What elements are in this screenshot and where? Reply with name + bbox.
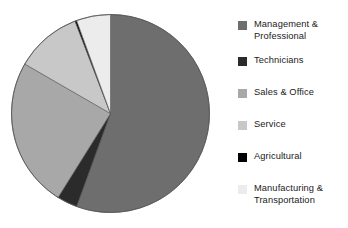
legend-item[interactable]: Service — [238, 119, 348, 131]
legend-color-swatch — [238, 21, 247, 30]
legend-item[interactable]: Technicians — [238, 55, 348, 67]
legend-color-swatch — [238, 57, 247, 66]
legend-item[interactable]: Sales & Office — [238, 87, 348, 99]
legend-color-swatch — [238, 185, 247, 194]
legend-item[interactable]: Management & Professional — [238, 19, 348, 42]
pie-slice-group — [11, 15, 209, 213]
legend-item-label: Technicians — [254, 55, 348, 67]
legend-item-label: Agricultural — [254, 151, 348, 163]
legend-color-swatch — [238, 89, 247, 98]
pie-chart-svg — [11, 14, 210, 213]
chart-legend: Management & ProfessionalTechniciansSale… — [238, 14, 348, 219]
legend-item-label: Sales & Office — [254, 87, 348, 99]
legend-color-swatch — [238, 153, 247, 162]
pie-chart-plot-area — [11, 14, 210, 213]
legend-item-label: Management & Professional — [254, 19, 348, 42]
legend-item-label: Manufacturing & Transportation — [254, 183, 348, 206]
legend-item-label: Service — [254, 119, 348, 131]
pie-chart-figure: Management & ProfessionalTechniciansSale… — [0, 0, 348, 228]
legend-item[interactable]: Agricultural — [238, 151, 348, 163]
legend-item[interactable]: Manufacturing & Transportation — [238, 183, 348, 206]
legend-color-swatch — [238, 121, 247, 130]
